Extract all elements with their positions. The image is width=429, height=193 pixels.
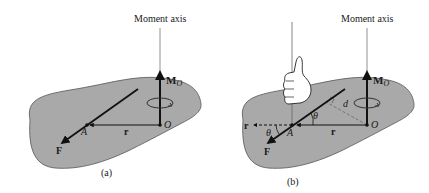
r-label: r [124,126,129,137]
caption-a: (a) [101,167,112,179]
caption-b: (b) [287,176,299,188]
right-hand-thumbs-up-icon [284,57,312,104]
panel-a: Moment axis MO r F A O (a) [29,13,201,179]
F-label: F [264,146,270,157]
r-label: r [331,126,336,137]
theta-label-1: θ [313,110,318,121]
theta-label-2: θ [266,127,271,138]
O-label: O [371,119,378,130]
point-O [365,123,369,127]
moment-label: MO [373,74,389,88]
O-label: O [164,119,171,130]
A-label: A [80,126,88,137]
moment-label: MO [166,74,182,88]
r-shifted-label: r [244,120,249,131]
F-label: F [56,145,62,156]
panel-b: Moment axis MO r r d F θ θ A [242,13,414,188]
point-O [158,123,162,127]
A-label: A [286,127,294,138]
moment-axis-label: Moment axis [341,13,394,24]
moment-axis-label: Moment axis [134,13,187,24]
moment-diagram: Moment axis MO r F A O (a) Moment axis M… [0,0,429,193]
